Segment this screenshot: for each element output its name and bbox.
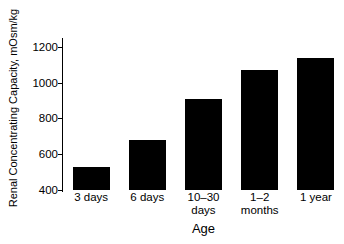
y-axis-tick-mark	[58, 154, 63, 155]
x-axis-tick-labels: 3 days6 days10–30 days1–2 months1 year	[63, 191, 344, 225]
bar-slot	[129, 38, 166, 190]
plot-area	[63, 38, 344, 190]
y-axis-tick-label: 400	[14, 184, 58, 196]
bar	[73, 167, 110, 190]
x-axis-tick-label: 10–30 days	[175, 191, 231, 217]
y-axis-tick-label: 800	[14, 112, 58, 124]
x-axis-tick-label: 1–2 months	[232, 191, 288, 217]
y-axis-tick-label: 600	[14, 148, 58, 160]
y-axis-tick-labels: 40060080010001200	[12, 0, 58, 244]
y-axis-tick-mark	[58, 118, 63, 119]
bar	[129, 140, 166, 190]
bar-slot	[241, 38, 278, 190]
x-axis-tick-label: 1 year	[288, 191, 344, 204]
bar-slot	[297, 38, 334, 190]
x-axis-tick-label: 3 days	[63, 191, 119, 204]
y-axis-tick-mark	[58, 47, 63, 48]
bar-slot	[73, 38, 110, 190]
y-axis-tick-mark	[58, 190, 63, 191]
y-axis-tick-mark	[58, 83, 63, 84]
y-axis-tick-label: 1000	[14, 77, 58, 89]
x-axis-tick-label: 6 days	[119, 191, 175, 204]
bar-slot	[185, 38, 222, 190]
bar-chart: Renal Concentrating Capacity, mOsm/kg 40…	[0, 0, 344, 244]
bar	[185, 99, 222, 190]
x-axis-title: Age	[63, 221, 344, 237]
bar	[241, 70, 278, 190]
y-axis-tick-label: 1200	[14, 41, 58, 53]
bar	[297, 58, 334, 190]
